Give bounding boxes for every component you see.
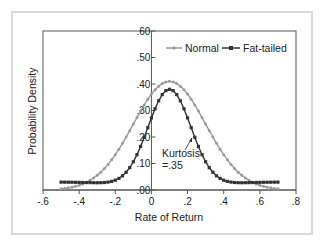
legend-item-fat-tailed: Fat-tailed (222, 42, 287, 54)
legend-item-normal: Normal (166, 42, 219, 54)
y-tick-label: .10 (137, 158, 151, 169)
x-tick-label: .8 (292, 196, 301, 207)
normal-marker-icon (172, 46, 176, 50)
y-axis-label: Probability Density (26, 67, 38, 155)
legend: Normal Fat-tailed (166, 42, 287, 54)
x-tick-label: .2 (183, 196, 192, 207)
y-tick-label: .00 (137, 185, 151, 196)
annotation-line1: Kurtosis (162, 147, 200, 159)
y-tick-label: .60 (137, 26, 151, 37)
arrow-icon (189, 138, 192, 142)
series-normal (61, 81, 278, 188)
curves (59, 80, 279, 190)
y-tick-label: .50 (137, 52, 151, 63)
x-tick-label: .6 (256, 196, 265, 207)
x-tick-label: -.2 (109, 196, 121, 207)
x-tick-label: 0 (149, 196, 155, 207)
x-tick-label: .4 (220, 196, 229, 207)
legend-label-fat-tailed: Fat-tailed (243, 42, 287, 54)
fat-tailed-marker-icon (229, 46, 233, 50)
x-tick-label: -.4 (73, 196, 85, 207)
legend-label-normal: Normal (185, 42, 219, 54)
x-axis-label: Rate of Return (135, 211, 203, 223)
annotation-line2: =.35 (162, 159, 183, 171)
y-tick-label: .40 (137, 79, 151, 90)
x-tick-label: -.6 (37, 196, 49, 207)
chart: -.6-.4-.20.2.4.6.8.00.10.20.30.40.50.60 … (0, 0, 324, 240)
kurtosis-annotation: Kurtosis =.35 (162, 138, 200, 171)
